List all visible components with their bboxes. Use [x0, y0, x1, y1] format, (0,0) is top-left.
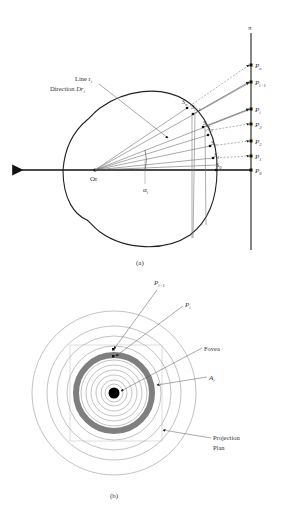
lens-lines: [192, 113, 206, 238]
angle-arc: [145, 150, 147, 170]
angle-label: αi: [143, 186, 149, 195]
label-a-i: Ai: [208, 374, 215, 383]
label-p-3: P3: [254, 121, 262, 130]
label-p-i1-b: Pi+1: [153, 279, 165, 288]
direction-leader: [99, 84, 168, 138]
figure-a: π Or: [22, 24, 266, 267]
label-p-2: P2: [254, 138, 262, 147]
caption-b: (b): [110, 492, 119, 500]
pi-label: π: [248, 24, 252, 32]
line-label: Line ri: [75, 75, 93, 84]
marker-p-i: [112, 355, 115, 358]
label-s-n: Sn: [182, 98, 188, 107]
fovea: [109, 388, 120, 399]
label-p-1: P1: [254, 153, 262, 162]
marker-p-i1: [112, 348, 115, 351]
label-projection: Projection: [213, 434, 240, 441]
label-plan: Plan: [213, 444, 225, 451]
caption-a: (a): [136, 259, 144, 267]
label-p-0: P0: [254, 167, 262, 176]
label-s-3: S3: [207, 124, 213, 133]
figure-b: Pi+1 Pi Fovea Ai Projection Plan (b): [32, 279, 240, 500]
label-p-i-b: Pi: [184, 301, 191, 310]
label-fovea: Fovea: [204, 345, 220, 352]
label-p-n: Pn: [254, 62, 262, 71]
label-p-i: Pi: [254, 106, 261, 115]
direction-label: Direction Dri: [50, 85, 85, 94]
label-s-2: S2: [211, 139, 217, 148]
label-s-i1: Si+1: [191, 103, 201, 112]
origin-label: Or: [90, 175, 98, 183]
label-p-i1: Pi+1: [254, 79, 266, 88]
diagram-canvas: π Or: [0, 0, 283, 520]
projection-lines: [187, 65, 249, 158]
solid-projections: [193, 82, 249, 127]
rays: [95, 82, 251, 170]
label-s-1: S1: [214, 151, 220, 160]
